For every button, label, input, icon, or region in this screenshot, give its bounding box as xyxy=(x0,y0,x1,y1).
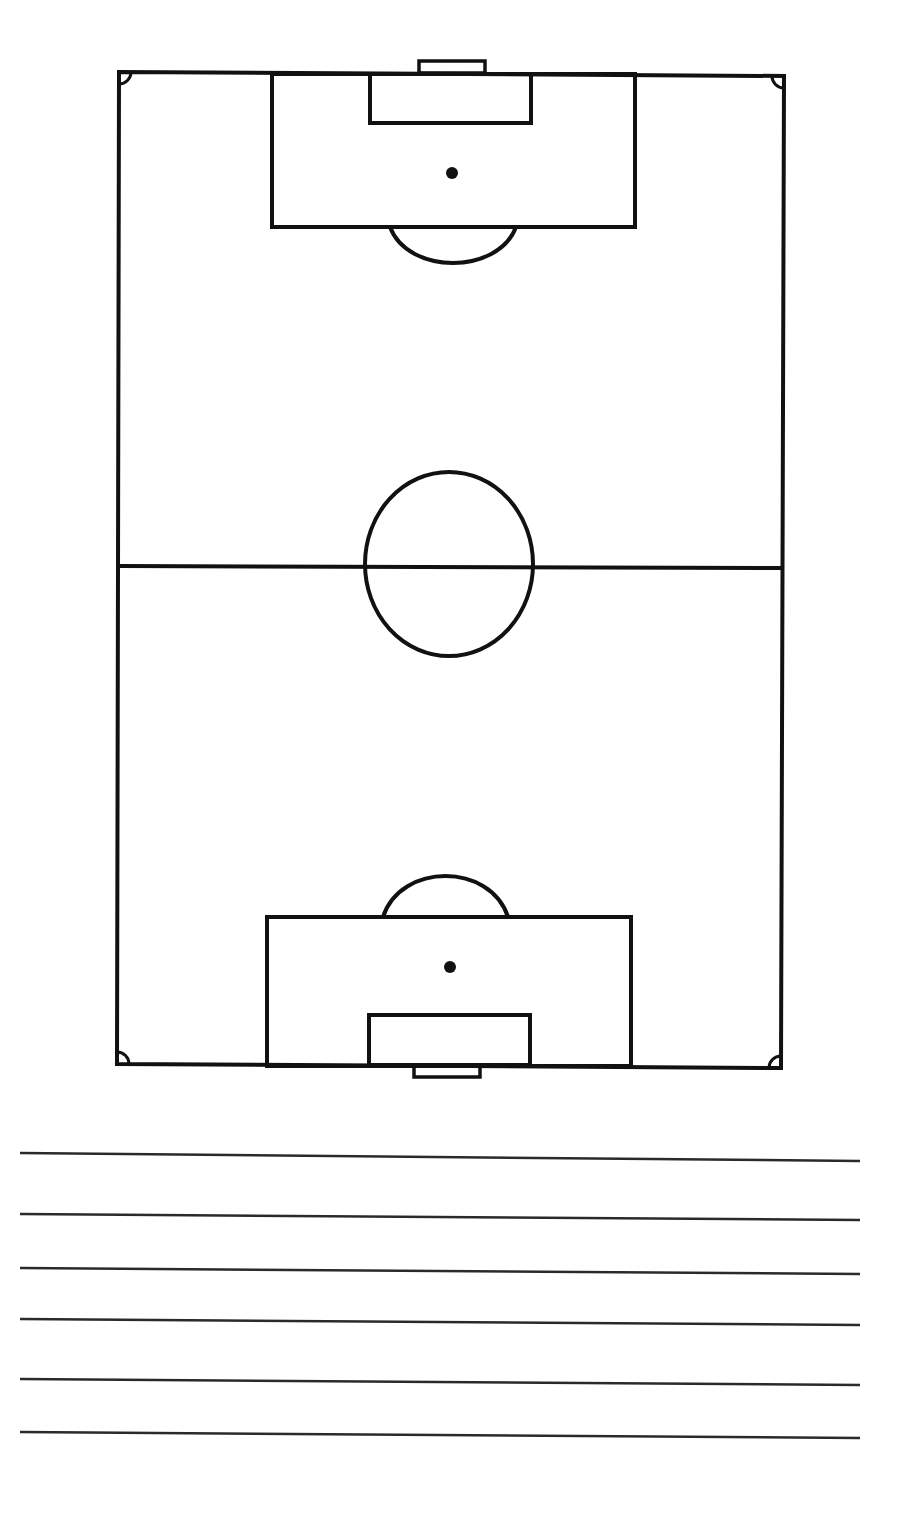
note-line xyxy=(20,1432,860,1438)
note-line xyxy=(20,1153,860,1161)
bottom-goal-box xyxy=(369,1015,530,1065)
note-line xyxy=(20,1319,860,1325)
bottom-penalty-arc xyxy=(383,876,508,917)
top-penalty-spot xyxy=(446,167,458,179)
halfway-line xyxy=(119,566,782,568)
note-line xyxy=(20,1268,860,1274)
bottom-penalty-box xyxy=(267,917,631,1066)
bottom-penalty-spot xyxy=(444,961,456,973)
note-line xyxy=(20,1214,860,1220)
top-penalty-arc xyxy=(390,227,516,263)
center-circle xyxy=(365,472,533,656)
soccer-field-diagram xyxy=(0,0,910,1100)
top-penalty-box xyxy=(272,74,635,227)
top-goal-box xyxy=(370,74,531,123)
note-line xyxy=(20,1379,860,1385)
top-goal xyxy=(419,61,485,73)
notes-lines-area xyxy=(0,1100,910,1525)
